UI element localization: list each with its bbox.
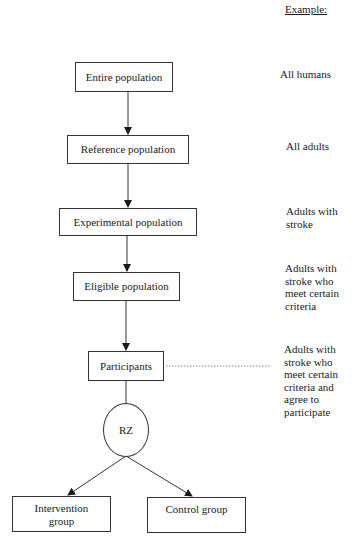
example-heading: Example: (285, 3, 327, 15)
node-control-group: Control group (147, 497, 246, 533)
node-label: Reference population (81, 143, 175, 156)
node-participants: Participants (88, 351, 164, 381)
arrow-rz-to-intervention (68, 456, 126, 495)
node-intervention-group: Intervention group (12, 496, 111, 532)
node-label: Control group (165, 503, 227, 516)
example-reference: All adults (286, 140, 329, 153)
node-eligible-population: Eligible population (73, 272, 180, 301)
example-entire: All humans (280, 68, 331, 81)
node-label: Eligible population (84, 280, 169, 293)
node-label: Intervention group (35, 502, 89, 528)
node-reference-population: Reference population (67, 135, 189, 164)
node-entire-population: Entire population (75, 62, 173, 92)
node-label: RZ (119, 424, 133, 436)
node-label: Entire population (86, 71, 163, 84)
node-experimental-population: Experimental population (59, 208, 197, 236)
example-participants: Adults with stroke who meet certain crit… (284, 343, 338, 418)
arrow-rz-to-control (126, 456, 192, 496)
example-eligible: Adults with stroke who meet certain crit… (285, 262, 339, 312)
node-label: Participants (100, 360, 152, 373)
example-experimental: Adults with stroke (286, 205, 338, 230)
node-label: Experimental population (73, 216, 182, 229)
node-randomization: RZ (103, 403, 149, 457)
